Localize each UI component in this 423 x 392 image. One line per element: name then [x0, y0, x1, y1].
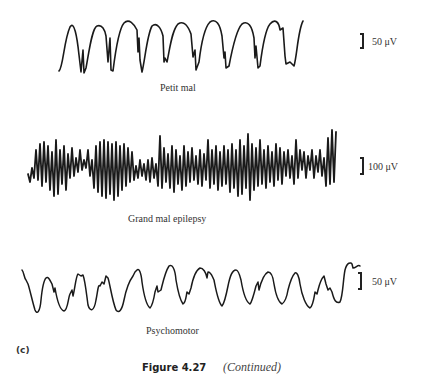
figure-caption: Figure 4.27 (Continued) — [0, 360, 423, 375]
psychomotor-waveform — [0, 0, 423, 392]
psychomotor-scale-bar: 50 μV — [358, 272, 397, 290]
scale-bracket-icon — [358, 272, 362, 290]
psychomotor-scale-label: 50 μV — [372, 276, 397, 287]
figure-number: Figure 4.27 — [142, 362, 206, 373]
panel-letter: (c) — [16, 345, 30, 355]
psychomotor-label: Psychomotor — [146, 325, 199, 336]
figure-note: (Continued) — [223, 360, 281, 374]
